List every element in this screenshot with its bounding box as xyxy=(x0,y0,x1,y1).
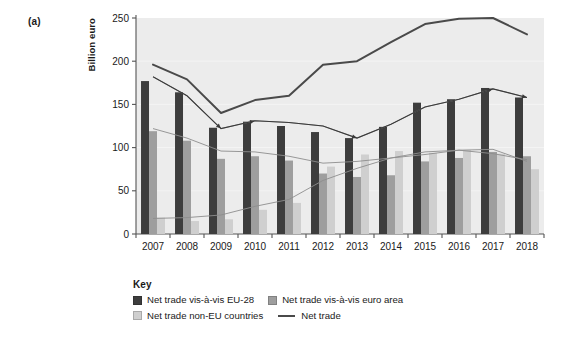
x-tick-label: 2014 xyxy=(380,241,403,252)
bar-2-0 xyxy=(157,218,165,234)
y-tick-label: 50 xyxy=(118,185,130,196)
y-tick-label: 200 xyxy=(112,56,129,67)
legend-title: Key xyxy=(133,279,563,290)
chart-legend: Key Net trade vis-à-vis EU-28 Net trade … xyxy=(133,279,563,326)
chart-plot-area: 0501001502002502007200820092010201120122… xyxy=(100,12,552,264)
legend-entry-net-trade: Net trade xyxy=(277,311,340,322)
bar-0-0 xyxy=(141,81,149,234)
x-tick-label: 2007 xyxy=(142,241,165,252)
bar-1-6 xyxy=(353,177,361,234)
bar-1-5 xyxy=(319,174,327,234)
bar-1-11 xyxy=(523,156,531,234)
bar-1-1 xyxy=(183,141,191,234)
legend-row-1: Net trade vis-à-vis EU-28 Net trade vis-… xyxy=(133,295,563,306)
bar-0-10 xyxy=(481,88,489,234)
bar-1-4 xyxy=(285,161,293,234)
legend-entry-non-eu: Net trade non-EU countries xyxy=(133,311,263,322)
bar-0-2 xyxy=(209,128,217,234)
bar-2-3 xyxy=(259,210,267,234)
bar-2-1 xyxy=(191,221,199,234)
bar-0-3 xyxy=(243,122,251,234)
legend-swatch-euro-area-icon xyxy=(268,296,277,305)
legend-swatch-non-eu-icon xyxy=(133,311,142,320)
y-tick-label: 100 xyxy=(112,142,129,153)
legend-label-euro-area: Net trade vis-à-vis euro area xyxy=(282,295,403,306)
bar-0-6 xyxy=(345,138,353,234)
figure-panel: (a) Billion euro 05010015020025020072008… xyxy=(0,0,582,343)
legend-label-non-eu: Net trade non-EU countries xyxy=(147,311,263,322)
legend-label-eu28: Net trade vis-à-vis EU-28 xyxy=(147,295,254,306)
legend-entry-euro-area: Net trade vis-à-vis euro area xyxy=(268,295,403,306)
legend-swatch-eu28-icon xyxy=(133,296,142,305)
legend-entry-eu28: Net trade vis-à-vis EU-28 xyxy=(133,295,254,306)
bar-1-7 xyxy=(387,175,395,234)
bar-0-8 xyxy=(413,103,421,234)
y-tick-label: 150 xyxy=(112,99,129,110)
bar-2-7 xyxy=(395,151,403,234)
y-tick-label: 0 xyxy=(123,229,129,240)
bar-2-8 xyxy=(429,153,437,234)
x-tick-label: 2010 xyxy=(244,241,267,252)
bar-1-9 xyxy=(455,158,463,234)
bar-0-9 xyxy=(447,99,455,234)
x-tick-label: 2013 xyxy=(346,241,369,252)
x-tick-label: 2015 xyxy=(414,241,437,252)
x-tick-label: 2016 xyxy=(448,241,471,252)
legend-label-net-trade: Net trade xyxy=(301,311,340,322)
bar-0-4 xyxy=(277,126,285,234)
x-tick-label: 2017 xyxy=(482,241,505,252)
bar-0-1 xyxy=(175,92,183,234)
panel-label: (a) xyxy=(28,16,41,27)
x-tick-label: 2018 xyxy=(516,241,539,252)
bar-1-3 xyxy=(251,156,259,234)
bar-2-10 xyxy=(497,154,505,234)
bar-1-2 xyxy=(217,159,225,234)
x-tick-label: 2008 xyxy=(176,241,199,252)
x-tick-label: 2012 xyxy=(312,241,335,252)
chart-svg: 0501001502002502007200820092010201120122… xyxy=(100,12,552,264)
bar-1-8 xyxy=(421,161,429,234)
y-axis-title: Billion euro xyxy=(86,18,100,71)
y-tick-label: 250 xyxy=(112,13,129,24)
bar-2-11 xyxy=(531,169,539,234)
legend-line-net-trade-icon xyxy=(278,315,295,317)
bar-1-10 xyxy=(489,152,497,234)
x-tick-label: 2009 xyxy=(210,241,233,252)
x-tick-label: 2011 xyxy=(278,241,300,252)
bar-2-2 xyxy=(225,219,233,234)
bar-2-4 xyxy=(293,203,301,234)
bar-0-7 xyxy=(379,127,387,234)
bar-0-11 xyxy=(515,97,523,234)
bar-2-9 xyxy=(463,150,471,234)
legend-row-2: Net trade non-EU countries Net trade xyxy=(133,311,563,322)
